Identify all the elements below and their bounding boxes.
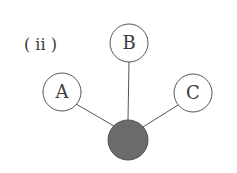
node-b-label: B — [122, 32, 135, 53]
caption-label: ( ii ) — [24, 35, 57, 54]
node-c-label: C — [186, 82, 200, 103]
edge-a-center — [76, 104, 114, 126]
diagram-canvas: ( ii ) A B C — [0, 0, 237, 173]
node-center — [108, 120, 148, 160]
edge-b-center — [128, 62, 129, 120]
node-c: C — [174, 74, 212, 112]
node-a: A — [43, 73, 81, 111]
node-b: B — [110, 24, 148, 62]
edge-c-center — [143, 105, 178, 127]
node-a-label: A — [55, 81, 70, 102]
